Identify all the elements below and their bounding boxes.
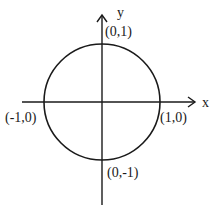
- point-label-bottom: (0,-1): [107, 165, 139, 181]
- x-axis-label: x: [202, 95, 209, 110]
- x-axis: [22, 97, 195, 107]
- point-label-right: (1,0): [160, 110, 187, 126]
- y-axis-label: y: [117, 5, 124, 20]
- point-label-top: (0,1): [105, 24, 132, 40]
- point-label-left: (-1,0): [5, 110, 37, 126]
- unit-circle-diagram: x y (0,1) (-1,0) (1,0) (0,-1): [0, 0, 217, 212]
